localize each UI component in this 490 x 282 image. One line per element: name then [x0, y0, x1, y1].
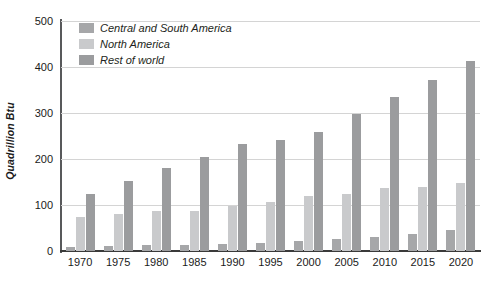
bar [256, 243, 265, 251]
bar [342, 194, 351, 252]
bar [390, 97, 399, 251]
y-axis-tick-label: 100 [9, 199, 53, 211]
bar [152, 211, 161, 251]
bar [408, 234, 417, 251]
bar [380, 188, 389, 251]
legend-item: North America [79, 37, 232, 50]
bar [86, 194, 95, 251]
bar-group [404, 21, 442, 251]
legend-item-label: North America [100, 38, 170, 50]
bar-group [366, 21, 404, 251]
bar [314, 132, 323, 251]
bar-group [442, 21, 480, 251]
bar [76, 217, 85, 252]
bar-chart: Quadrillion Btu 0100200300400500 1970197… [0, 0, 490, 282]
x-axis-tick-label: 2010 [373, 256, 397, 268]
bar [428, 80, 437, 251]
x-axis-tick-label: 1990 [220, 256, 244, 268]
bar [142, 245, 151, 251]
legend-item-label: Rest of world [100, 54, 164, 66]
x-axis-tick-label: 1985 [182, 256, 206, 268]
bar [228, 206, 237, 251]
x-axis-tick-label: 2005 [334, 256, 358, 268]
legend-swatch-icon [79, 39, 94, 49]
bar [456, 183, 465, 251]
x-axis-tick-label: 2015 [411, 256, 435, 268]
bar [466, 61, 475, 251]
y-axis-tick-label: 300 [9, 107, 53, 119]
legend-swatch-icon [79, 55, 94, 65]
bar [162, 168, 171, 251]
x-axis-tick-label: 1995 [258, 256, 282, 268]
bar [276, 140, 285, 251]
bar [238, 144, 247, 251]
y-axis-tick-label: 500 [9, 15, 53, 27]
bar [114, 214, 123, 251]
bar [266, 202, 275, 251]
legend-item-label: Central and South America [100, 22, 232, 34]
bar-group [328, 21, 366, 251]
x-axis-tick-label: 2020 [449, 256, 473, 268]
y-axis-tick-label: 200 [9, 153, 53, 165]
bar [370, 237, 379, 251]
bar-group [290, 21, 328, 251]
x-axis-tick-label: 1980 [144, 256, 168, 268]
x-axis-tick-label: 1970 [68, 256, 92, 268]
bar [332, 239, 341, 251]
legend-item: Central and South America [79, 21, 232, 34]
bar [200, 157, 209, 251]
bar [418, 187, 427, 251]
y-axis-title: Quadrillion Btu [0, 0, 20, 282]
bar [304, 196, 313, 251]
chart-legend: Central and South America North America … [79, 21, 232, 66]
legend-item: Rest of world [79, 53, 232, 66]
bar [124, 181, 133, 251]
bar [352, 114, 361, 251]
x-axis-tick-label: 2000 [296, 256, 320, 268]
bar [446, 230, 455, 251]
legend-swatch-icon [79, 23, 94, 33]
bar [294, 241, 303, 251]
y-axis-tick-label: 0 [9, 245, 53, 257]
bar [66, 247, 75, 251]
bar [104, 246, 113, 251]
bar-group [251, 21, 289, 251]
x-axis-tick-label: 1975 [106, 256, 130, 268]
bar [180, 245, 189, 251]
y-axis-tick-label: 400 [9, 61, 53, 73]
bar [218, 244, 227, 251]
bar [190, 211, 199, 251]
